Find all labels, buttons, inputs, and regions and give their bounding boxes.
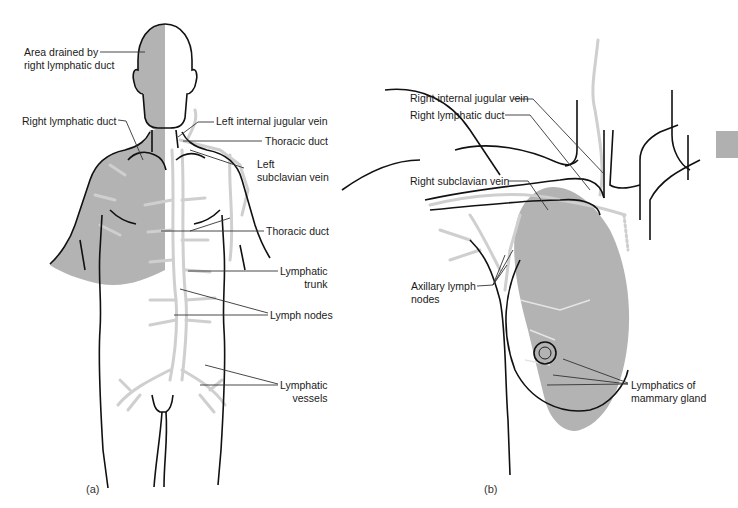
label-right-lymphatic-duct-b: Right lymphatic duct (410, 109, 505, 122)
label-axillary-lymph-nodes: Axillary lymph nodes (411, 280, 476, 306)
label-thoracic-duct-lower: Thoracic duct (266, 225, 329, 238)
label-area-drained-right-lymphatic-duct: Area drained by right lymphatic duct (24, 46, 114, 72)
panel-label-a: (a) (86, 483, 99, 495)
label-right-subclavian-vein: Right subclavian vein (410, 175, 509, 188)
label-lymphatic-trunk: Lymphatic trunk (280, 265, 327, 291)
label-right-lymphatic-duct-a: Right lymphatic duct (22, 115, 117, 128)
label-thoracic-duct-upper: Thoracic duct (265, 135, 328, 148)
lymphatic-system-diagram (0, 0, 738, 508)
label-lymph-nodes: Lymph nodes (270, 309, 333, 322)
right-head-shaded-area (133, 24, 165, 130)
label-right-internal-jugular-vein: Right internal jugular vein (410, 92, 528, 105)
page-edge-tab (716, 131, 738, 158)
label-left-internal-jugular-vein: Left internal jugular vein (216, 115, 328, 128)
panel-a-figure (50, 24, 278, 488)
label-lymphatic-vessels: Lymphatic vessels (280, 379, 327, 405)
label-left-subclavian-vein: Left subclavian vein (257, 158, 329, 184)
label-lymphatics-of-mammary-gland: Lymphatics of mammary gland (631, 379, 706, 405)
panel-b-figure (342, 40, 700, 475)
panel-label-b: (b) (484, 483, 497, 495)
breast-shaded-area (514, 187, 629, 431)
